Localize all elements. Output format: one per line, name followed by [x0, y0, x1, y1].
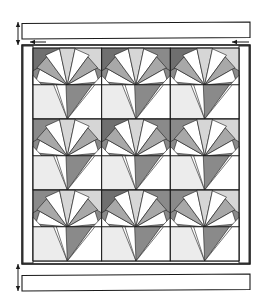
fan-block	[33, 48, 102, 119]
left-vertical-dimension-top-arrowhead-bottom	[16, 40, 20, 45]
bottom-border-strip	[22, 274, 250, 291]
fan-block	[102, 119, 171, 190]
bottom-border-strip-shape	[22, 274, 250, 291]
fan-block	[170, 48, 239, 119]
block-grid	[33, 48, 239, 261]
left-vertical-dimension-top	[16, 22, 20, 45]
top-left-horizontal-arrow	[30, 40, 46, 44]
left-vertical-dimension-bottom-arrowhead-bottom	[16, 286, 20, 291]
top-border-strip-shape	[22, 22, 250, 39]
fan-block	[102, 190, 171, 261]
right-border-strip	[239, 46, 249, 263]
quilt-pattern-illustration	[0, 0, 278, 301]
left-vertical-dimension-top-arrowhead-top	[16, 22, 20, 27]
left-vertical-dimension-bottom	[16, 264, 20, 291]
quilt-diagram-canvas	[0, 0, 278, 301]
fan-block	[33, 119, 102, 190]
fan-block	[102, 48, 171, 119]
top-border-strip	[22, 22, 250, 39]
fan-block	[170, 190, 239, 261]
top-left-horizontal-arrow-arrowhead	[30, 40, 35, 44]
top-right-horizontal-arrow-arrowhead	[232, 40, 237, 44]
fan-block	[170, 119, 239, 190]
left-vertical-dimension-bottom-arrowhead-top	[16, 264, 20, 269]
left-border-strip	[23, 46, 33, 263]
top-right-horizontal-arrow	[232, 40, 249, 44]
fan-block	[33, 190, 102, 261]
